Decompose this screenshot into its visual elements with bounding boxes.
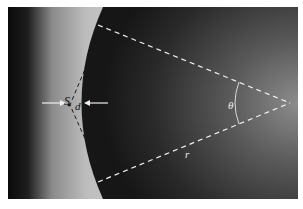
label-theta: θ [228,100,233,111]
dark-region [82,7,299,199]
micrograph-figure: S d θ r [8,7,298,199]
diagram-canvas [8,7,298,199]
label-s: S [64,95,70,107]
label-r: r [185,149,189,160]
label-d: d [75,101,81,112]
